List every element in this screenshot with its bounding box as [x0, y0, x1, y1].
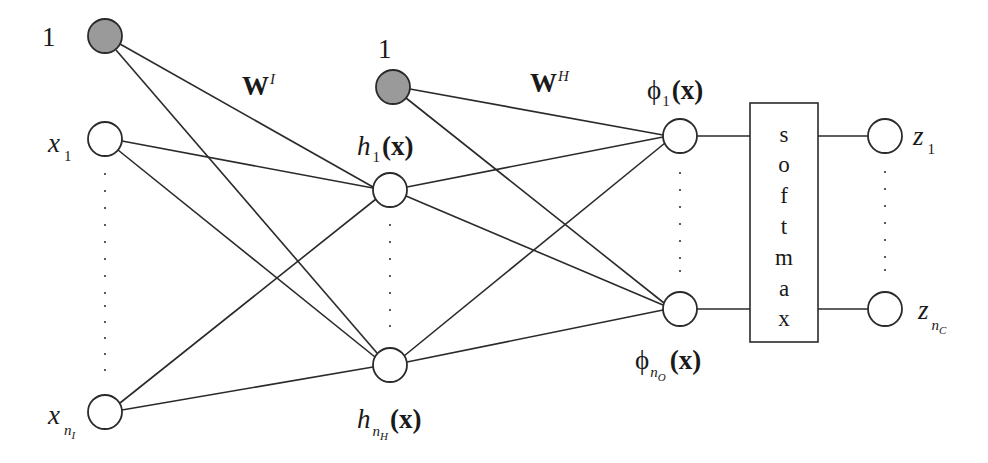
input-layer: 1 x1 xnI	[42, 19, 122, 441]
hidden-bias-label: 1	[378, 34, 392, 64]
input-bias-node	[88, 19, 122, 53]
final-z1-label: z1	[912, 121, 935, 157]
softmax-letter: s	[780, 122, 789, 147]
edge-xn-hn	[122, 367, 373, 410]
final-zn-label: znC	[917, 295, 947, 336]
final-node-z1	[868, 119, 902, 153]
hidden-bias-node	[376, 70, 410, 104]
softmax-letter: x	[778, 306, 790, 331]
output-node-phi1	[663, 119, 697, 153]
final-node-zn	[868, 292, 902, 326]
input-bias-label: 1	[42, 22, 56, 52]
edge-hn-phi1	[404, 143, 665, 356]
softmax-letter: o	[778, 152, 790, 177]
edge-bias-h1	[120, 44, 373, 187]
hidden-layer: 1 h1(x) hnH(x)	[357, 34, 421, 442]
weights-hidden-output-label: WH	[530, 68, 570, 98]
output-phi1-label: ϕ1(x)	[647, 75, 703, 109]
softmax-letter: m	[775, 245, 793, 270]
input-node-xn	[88, 395, 122, 429]
input-ellipsis	[104, 173, 106, 371]
output-layer: ϕ1(x) ϕnO(x)	[635, 75, 703, 383]
edge-hn-phin	[407, 310, 663, 362]
softmax-block: s o f t m a x	[750, 103, 818, 342]
hidden-node-h1	[373, 173, 407, 207]
softmax-letter: f	[780, 183, 788, 208]
input-x1-label: x1	[47, 128, 71, 164]
input-node-x1	[88, 122, 122, 156]
hidden-ellipsis	[389, 224, 391, 327]
edge-x1-h1	[122, 141, 373, 188]
softmax-letter: t	[781, 214, 788, 239]
final-ellipsis	[884, 171, 886, 271]
neural-network-diagram: 1 x1 xnI WI 1 h1(x)	[0, 0, 988, 463]
input-xn-label: xnI	[47, 400, 76, 441]
edges-hidden-output	[404, 89, 665, 362]
edge-h1-phi1	[407, 137, 663, 187]
hidden-hn-label: hnH(x)	[357, 404, 421, 442]
hidden-h1-label: h1(x)	[357, 131, 413, 165]
output-phin-label: ϕnO(x)	[635, 345, 701, 383]
softmax-letter: a	[779, 276, 789, 301]
output-ellipsis	[679, 172, 681, 272]
weights-input-hidden-label: WI	[242, 71, 276, 101]
output-node-phin	[663, 292, 697, 326]
hidden-node-hn	[373, 348, 407, 382]
final-output-layer: z1 znC	[868, 119, 947, 336]
